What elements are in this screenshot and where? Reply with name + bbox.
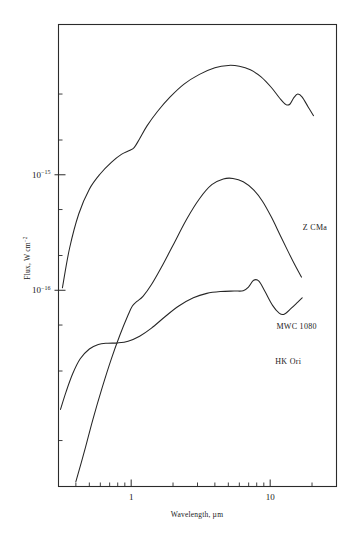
series-label-hk-ori: HK Ori xyxy=(275,357,301,366)
series-label-z-cma: Z CMa xyxy=(303,223,328,232)
figure-container: 110 10−1510−16 Z CMaMWC 1080HK Ori Wavel… xyxy=(0,0,364,544)
x-tick-label: 10 xyxy=(266,492,276,502)
chart-background xyxy=(0,0,364,544)
y-axis-title: Flux, W cm−2 xyxy=(22,236,32,279)
x-tick-label: 1 xyxy=(129,492,134,502)
series-label-mwc-1080: MWC 1080 xyxy=(276,322,316,331)
flux-wavelength-chart: 110 10−1510−16 Z CMaMWC 1080HK Ori Wavel… xyxy=(0,0,364,544)
x-axis-title: Wavelength, µm xyxy=(171,510,223,519)
y-axis-title-group: Flux, W cm−2 xyxy=(22,236,32,279)
